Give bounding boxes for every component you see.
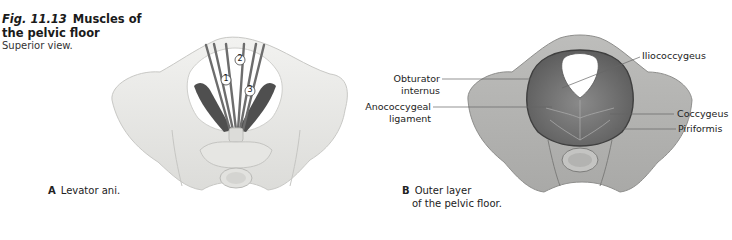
label-iliococcygeus: Iliococcygeus — [642, 50, 706, 62]
callout-3-label: 3 — [246, 85, 254, 94]
label-piriformis: Piriformis — [678, 123, 722, 135]
label-coccygeus: Coccygeus — [677, 108, 728, 120]
panel-a-letter: A — [48, 185, 56, 196]
panel-a-pelvis — [112, 37, 347, 190]
callout-2-label: 2 — [236, 54, 244, 63]
callout-1-label: 1 — [222, 74, 230, 83]
label-obturator-internus: Obturator internus — [380, 73, 440, 97]
panel-a-caption-text: Levator ani. — [61, 185, 120, 196]
panel-b-letter: B — [402, 185, 410, 196]
panel-a-caption: ALevator ani. — [48, 184, 120, 197]
panel-b-caption: BOuter layer of the pelvic floor. — [402, 184, 502, 210]
label-anococcygeal-ligament: Anococcygeal ligament — [365, 101, 431, 125]
